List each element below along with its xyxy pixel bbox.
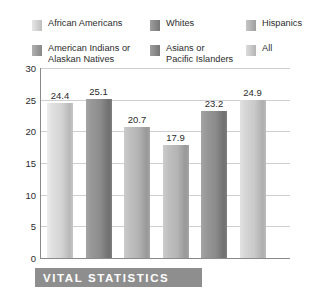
legend-item-label: Hispanics	[262, 18, 302, 29]
y-axis-tick-label: 5	[2, 221, 36, 232]
legend-item-hispanics: Hispanics	[246, 18, 314, 43]
y-axis-tick-label: 0	[2, 253, 36, 264]
y-axis-tick-label: 20	[2, 126, 36, 137]
bar-slot: 24.9	[240, 68, 266, 258]
bar-value-label: 20.7	[113, 114, 161, 125]
bar-chart: 051015202530 24.425.120.717.923.224.9	[0, 68, 317, 260]
legend-item-label: American Indians or Alaskan Natives	[48, 43, 130, 64]
legend-item-label: All	[262, 43, 272, 54]
bar-value-label: 25.1	[75, 86, 123, 97]
bar-series: 24.425.120.717.923.224.9	[41, 68, 273, 258]
legend-swatch-icon	[32, 20, 42, 31]
y-axis-tick-label: 25	[2, 95, 36, 106]
bar-slot: 17.9	[163, 68, 189, 258]
legend-item-label: Asians or Pacific Islanders	[166, 43, 233, 64]
bar	[163, 145, 189, 258]
bar-value-label: 17.9	[152, 132, 200, 143]
x-axis-baseline	[40, 258, 290, 259]
bar	[201, 111, 227, 258]
bar-slot: 24.4	[47, 68, 73, 258]
legend-item-whites: Whites	[150, 18, 246, 43]
footer-banner-title: VITAL STATISTICS	[35, 272, 169, 284]
bar	[240, 100, 266, 258]
legend-swatch-icon	[150, 45, 160, 56]
bar-value-label: 24.9	[229, 87, 277, 98]
y-axis-tick-label: 15	[2, 158, 36, 169]
legend-item-label: African Americans	[48, 18, 122, 29]
footer-banner: VITAL STATISTICS	[35, 268, 202, 287]
bar-slot: 23.2	[201, 68, 227, 258]
y-axis-tick-label: 30	[2, 63, 36, 74]
legend-swatch-icon	[32, 45, 42, 56]
legend-swatch-icon	[150, 20, 160, 31]
legend-row: African Americans Whites Hispanics	[32, 18, 314, 43]
chart-legend: African Americans Whites Hispanics Ameri…	[32, 18, 314, 68]
bar-value-label: 23.2	[190, 98, 238, 109]
bar-slot: 25.1	[86, 68, 112, 258]
legend-item-american-indians: American Indians or Alaskan Natives	[32, 43, 150, 68]
legend-swatch-icon	[246, 45, 256, 56]
bar	[47, 103, 73, 258]
bar	[124, 127, 150, 258]
legend-row: American Indians or Alaskan Natives Asia…	[32, 43, 314, 68]
legend-item-all: All	[246, 43, 314, 68]
bar	[86, 99, 112, 258]
legend-item-asians-pacific-islanders: Asians or Pacific Islanders	[150, 43, 246, 68]
legend-swatch-icon	[246, 20, 256, 31]
legend-item-label: Whites	[166, 18, 194, 29]
y-axis-tick-label: 10	[2, 190, 36, 201]
bar-slot: 20.7	[124, 68, 150, 258]
legend-item-african-americans: African Americans	[32, 18, 150, 43]
y-axis-tick-labels: 051015202530	[0, 68, 36, 260]
